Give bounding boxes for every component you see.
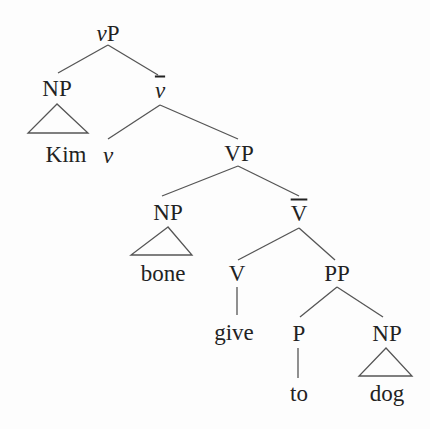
node-NP-subject: NP	[42, 77, 71, 100]
node-VP: VP	[224, 142, 253, 165]
node-V-bar: V	[291, 202, 308, 225]
leaf-bone: bone	[141, 262, 186, 285]
node-V: V	[229, 262, 246, 285]
leaf-to: to	[290, 382, 308, 405]
node-P: P	[293, 322, 306, 345]
node-NP-object: NP	[153, 201, 182, 224]
leaf-kim: Kim	[46, 143, 87, 166]
tree-edges	[0, 0, 430, 429]
node-vP: vP	[96, 22, 119, 45]
node-v-bar: v	[155, 79, 165, 102]
leaf-dog: dog	[370, 382, 405, 405]
leaf-give: give	[214, 321, 254, 344]
node-vP-label: P	[107, 21, 120, 46]
node-PP: PP	[324, 262, 350, 285]
node-NP-pobject: NP	[372, 322, 401, 345]
node-v: v	[103, 144, 113, 167]
node-vP-prefix: v	[96, 21, 106, 46]
